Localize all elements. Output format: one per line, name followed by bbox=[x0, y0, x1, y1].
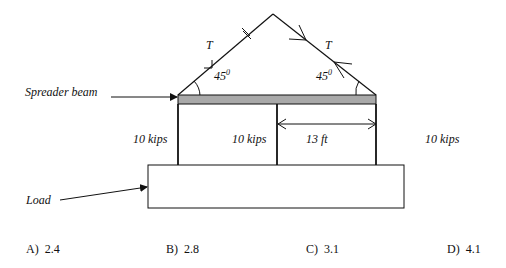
angle-right-label: 450 bbox=[316, 68, 332, 84]
answer-d: D) 4.1 bbox=[447, 242, 481, 257]
spreader-beam bbox=[178, 95, 376, 104]
angle-arc-right bbox=[356, 81, 359, 96]
tension-left-label: T bbox=[206, 38, 213, 53]
tension-right-label: T bbox=[325, 38, 332, 53]
answer-b: B) 2.8 bbox=[166, 242, 199, 257]
load-box bbox=[148, 165, 404, 208]
answer-a: A) 2.4 bbox=[26, 242, 60, 257]
answer-c: C) 3.1 bbox=[306, 242, 339, 257]
angle-left-label: 450 bbox=[214, 68, 230, 84]
weight-left-label: 10 kips bbox=[133, 132, 167, 147]
angle-arc-left bbox=[194, 81, 200, 96]
load-label: Load bbox=[26, 193, 51, 208]
spreader-beam-label: Spreader beam bbox=[25, 85, 98, 100]
dimension-label: 13 ft bbox=[306, 132, 328, 147]
weight-middle-label: 10 kips bbox=[232, 132, 266, 147]
weight-right-label: 10 kips bbox=[425, 132, 459, 147]
load-arrow bbox=[60, 187, 147, 200]
dimension-arrow bbox=[278, 119, 376, 129]
